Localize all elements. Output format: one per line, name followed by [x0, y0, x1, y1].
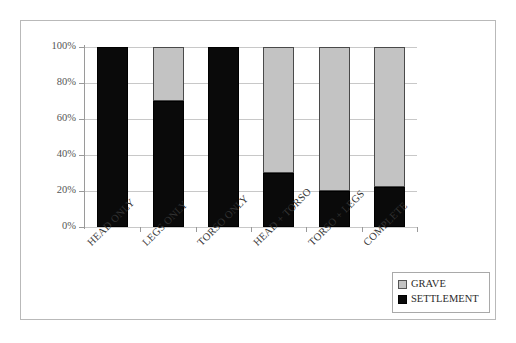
gridline: [85, 191, 417, 192]
x-axis-tick-mark: [362, 227, 363, 232]
y-axis-tick-label: 20%: [22, 185, 76, 196]
chart-figure: 0%20%40%60%80%100% HEAD ONLYLEGS ONLYTOR…: [0, 0, 516, 343]
y-axis-tick-mark: [79, 191, 85, 192]
legend-swatch-settlement-icon: [398, 295, 407, 304]
x-axis-tick-mark: [140, 227, 141, 232]
chart-legend: GRAVE SETTLEMENT: [392, 272, 490, 313]
y-axis-labels: 0%20%40%60%80%100%: [18, 0, 76, 343]
legend-swatch-grave-icon: [398, 280, 407, 289]
bar-segment-grave[interactable]: [319, 47, 350, 191]
x-axis-tick-mark: [306, 227, 307, 232]
y-axis-tick-label: 40%: [22, 149, 76, 160]
bar-segment-grave[interactable]: [263, 47, 294, 173]
legend-item-grave: GRAVE: [398, 277, 484, 292]
plot-area: [85, 47, 417, 227]
y-axis-tick-label: 0%: [22, 221, 76, 232]
bar-segment-grave[interactable]: [153, 47, 184, 101]
gridline: [85, 83, 417, 84]
x-axis-tick-mark: [251, 227, 252, 232]
legend-label-settlement: SETTLEMENT: [411, 294, 479, 305]
y-axis-tick-mark: [79, 119, 85, 120]
x-axis-tick-mark: [417, 227, 418, 232]
legend-label-grave: GRAVE: [411, 279, 446, 290]
y-axis-tick-mark: [79, 155, 85, 156]
bar-segment-grave[interactable]: [374, 47, 405, 187]
y-axis-tick-mark: [79, 47, 85, 48]
y-axis-tick-label: 60%: [22, 113, 76, 124]
y-axis-tick-mark: [79, 227, 85, 228]
x-axis-tick-mark: [196, 227, 197, 232]
gridline: [85, 155, 417, 156]
y-axis-tick-mark: [79, 83, 85, 84]
y-axis-tick-label: 80%: [22, 77, 76, 88]
legend-item-settlement: SETTLEMENT: [398, 292, 484, 307]
gridline: [85, 47, 417, 48]
y-axis-tick-label: 100%: [22, 41, 76, 52]
gridline: [85, 119, 417, 120]
